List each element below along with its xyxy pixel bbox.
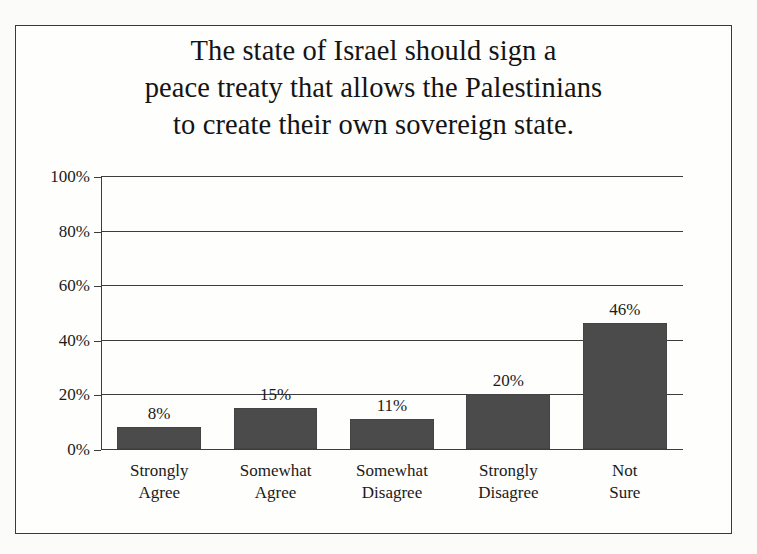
bar-group[interactable]: 20%StronglyDisagree <box>450 176 566 449</box>
bar[interactable] <box>350 419 434 449</box>
y-axis-tick-label: 80% <box>59 222 90 242</box>
y-axis-tick-label: 60% <box>59 276 90 296</box>
y-axis-tick <box>94 450 101 451</box>
bar-group[interactable]: 8%StronglyAgree <box>101 176 217 449</box>
x-axis-category-line: Agree <box>92 482 227 504</box>
bar-value-label: 8% <box>101 404 217 424</box>
bar-value-label: 46% <box>567 300 683 320</box>
y-axis-tick-label: 100% <box>50 167 90 187</box>
x-axis-category-line: Somewhat <box>325 460 460 482</box>
x-axis-category-label: SomewhatAgree <box>208 460 343 504</box>
x-axis-category-line: Strongly <box>441 460 576 482</box>
y-axis-tick <box>94 286 101 287</box>
bar[interactable] <box>117 427 201 449</box>
bar-group[interactable]: 15%SomewhatAgree <box>217 176 333 449</box>
bar-series: 8%StronglyAgree15%SomewhatAgree11%Somewh… <box>101 176 683 449</box>
y-axis-tick-label: 0% <box>67 440 90 460</box>
gridline: 0% <box>101 449 683 450</box>
x-axis-category-line: Somewhat <box>208 460 343 482</box>
bar-value-label: 15% <box>217 385 333 405</box>
bar-group[interactable]: 46%NotSure <box>567 176 683 449</box>
bar-group[interactable]: 11%SomewhatDisagree <box>334 176 450 449</box>
y-axis-tick-label: 40% <box>59 331 90 351</box>
bar-value-label: 20% <box>450 371 566 391</box>
y-axis-tick <box>94 395 101 396</box>
y-axis-tick <box>94 232 101 233</box>
page-background: The state of Israel should sign a peace … <box>0 0 757 554</box>
bar[interactable] <box>466 394 550 449</box>
chart-title-line-1: The state of Israel should sign a <box>16 32 731 69</box>
bar[interactable] <box>234 408 318 449</box>
y-axis-tick-label: 20% <box>59 385 90 405</box>
x-axis-category-line: Disagree <box>325 482 460 504</box>
chart-title-line-2: peace treaty that allows the Palestinian… <box>16 69 731 106</box>
x-axis-category-label: StronglyDisagree <box>441 460 576 504</box>
x-axis-category-label: NotSure <box>557 460 692 504</box>
bar[interactable] <box>583 323 667 449</box>
x-axis-category-label: StronglyAgree <box>92 460 227 504</box>
y-axis-tick <box>94 177 101 178</box>
x-axis-category-line: Not <box>557 460 692 482</box>
x-axis-category-label: SomewhatDisagree <box>325 460 460 504</box>
x-axis-category-line: Sure <box>557 482 692 504</box>
x-axis-category-line: Strongly <box>92 460 227 482</box>
chart-title-line-3: to create their own sovereign state. <box>16 106 731 143</box>
x-axis-category-line: Agree <box>208 482 343 504</box>
x-axis-category-line: Disagree <box>441 482 576 504</box>
y-axis-tick <box>94 341 101 342</box>
bar-value-label: 11% <box>334 396 450 416</box>
chart-title: The state of Israel should sign a peace … <box>16 32 731 143</box>
plot-area: 0%20%40%60%80%100% 8%StronglyAgree15%Som… <box>101 176 683 449</box>
chart-frame: The state of Israel should sign a peace … <box>15 25 732 534</box>
